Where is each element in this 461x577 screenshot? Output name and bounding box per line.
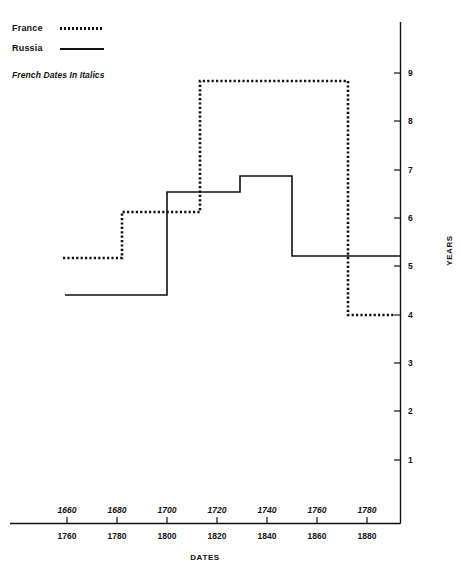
x-tick-russian-1760: 1760 [44,531,90,541]
y-tick-label-3: 3 [408,358,422,368]
plot-area [0,0,461,577]
x-tick-french-1700: 1700 [144,505,190,515]
x-tick-russian-1780: 1780 [94,531,140,541]
x-tick-russian-1840: 1840 [244,531,290,541]
x-tick-russian-1800: 1800 [144,531,190,541]
series-russia-step-line [65,176,400,295]
y-tick-label-4: 4 [408,310,422,320]
step-chart: France Russia French Dates In Italics [0,0,461,577]
y-tick-label-7: 7 [408,165,422,175]
y-tick-label-9: 9 [408,68,422,78]
y-tick-label-6: 6 [408,213,422,223]
x-tick-russian-1860: 1860 [294,531,340,541]
x-tick-french-1660: 1660 [44,505,90,515]
x-tick-french-1760: 1760 [294,505,340,515]
y-tick-label-1: 1 [408,455,422,465]
x-tick-french-1680: 1680 [94,505,140,515]
x-tick-french-1720: 1720 [194,505,240,515]
x-axis-title: DATES [0,553,410,562]
x-tick-russian-1880: 1880 [344,531,390,541]
y-axis-title: YEARS [445,235,454,266]
x-tick-french-1740: 1740 [244,505,290,515]
y-tick-label-2: 2 [408,406,422,416]
y-tick-label-8: 8 [408,116,422,126]
y-tick-label-5: 5 [408,261,422,271]
series-france-step-line [63,81,395,315]
x-tick-french-1780: 1780 [344,505,390,515]
x-tick-russian-1820: 1820 [194,531,240,541]
